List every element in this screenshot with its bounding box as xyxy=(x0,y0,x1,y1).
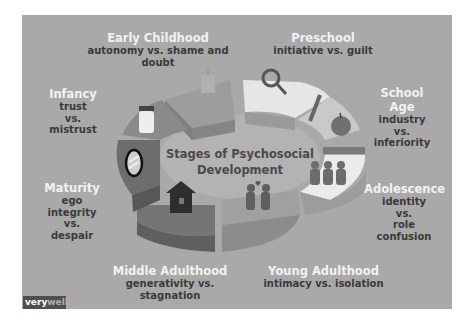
mirror-icon xyxy=(126,150,142,176)
stage-name: Preschool xyxy=(268,31,378,45)
stage-conflict: trust xyxy=(42,101,104,113)
center-title-line2: Development xyxy=(197,163,283,177)
stage-conflict: identity xyxy=(364,196,444,208)
stage-label-school-age: School Age industry vs. inferiority xyxy=(367,86,437,149)
brand-part1: very xyxy=(25,297,47,307)
stage-label-adolescence: Adolescence identity vs. role confusion xyxy=(364,182,444,242)
brand-part2: well xyxy=(47,297,68,307)
stage-label-middle-adulthood: Middle Adulthood generativity vs. stagna… xyxy=(95,264,245,301)
potty-icon xyxy=(201,70,215,93)
stage-conflict: intimacy vs. isolation xyxy=(256,278,391,290)
verywell-logo: verywell xyxy=(23,296,66,309)
stage-conflict-vs: vs. xyxy=(364,208,444,220)
stage-name: Middle Adulthood xyxy=(95,264,245,278)
stage-conflict: role confusion xyxy=(364,219,444,242)
center-title-line1: Stages of Psychosocial xyxy=(166,147,314,161)
stage-label-young-adulthood: Young Adulthood intimacy vs. isolation xyxy=(256,264,391,290)
stage-conflict: generativity vs. stagnation xyxy=(95,278,245,301)
center-title: Stages of Psychosocial Development xyxy=(165,146,315,178)
stage-label-maturity: Maturity ego integrity vs. despair xyxy=(36,181,108,241)
stage-name: Maturity xyxy=(36,181,108,195)
stage-name: School Age xyxy=(367,86,437,114)
group-people-icon xyxy=(310,161,346,185)
stage-conflict: despair xyxy=(36,230,108,242)
stage-label-early-childhood: Early Childhood autonomy vs. shame and d… xyxy=(78,31,238,68)
bottle-icon xyxy=(139,106,154,133)
stage-conflict: mistrust xyxy=(42,124,104,136)
stage-name: Young Adulthood xyxy=(256,264,391,278)
stage-conflict: industry xyxy=(367,114,437,126)
stage-name: Adolescence xyxy=(364,182,444,196)
stage-name: Infancy xyxy=(42,87,104,101)
stage-label-infancy: Infancy trust vs. mistrust xyxy=(42,87,104,136)
stage-conflict: initiative vs. guilt xyxy=(268,45,378,57)
stage-conflict: ego integrity xyxy=(36,195,108,218)
stage-conflict-vs: vs. xyxy=(367,126,437,138)
stage-conflict-vs: vs. xyxy=(36,218,108,230)
stage-conflict-vs: vs. xyxy=(42,113,104,125)
stage-name: Early Childhood xyxy=(78,31,238,45)
stage-conflict: autonomy vs. shame and doubt xyxy=(78,45,238,68)
stage-conflict: inferiority xyxy=(367,137,437,149)
svg-text:♥: ♥ xyxy=(255,180,261,188)
stage-label-preschool: Preschool initiative vs. guilt xyxy=(268,31,378,57)
